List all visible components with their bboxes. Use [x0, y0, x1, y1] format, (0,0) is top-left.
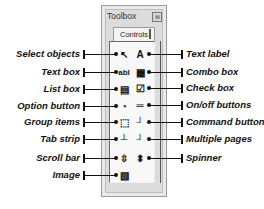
callout-label: Check box [186, 82, 234, 93]
callout-line [149, 72, 181, 73]
callout-label: Image [0, 169, 80, 180]
callout-label: Combo box [186, 66, 238, 77]
select-objects-icon[interactable]: ↖ [118, 49, 130, 60]
callout-label: Option button [0, 100, 80, 111]
callout-line [84, 158, 116, 159]
panel-edge [160, 41, 161, 183]
callout-line [149, 158, 181, 159]
option-button-icon[interactable]: ◔ [118, 101, 130, 112]
callout-line [84, 89, 116, 90]
command-button-icon[interactable]: ┘ [134, 117, 146, 128]
callout-line [84, 54, 116, 55]
callout-line [84, 122, 116, 123]
on-off-buttons-icon[interactable]: ═ [134, 100, 146, 111]
callout-tick [181, 101, 183, 110]
tab-strip-icon[interactable]: ┴ [118, 134, 130, 145]
callout-label: Command button [186, 116, 264, 127]
multiple-pages-icon[interactable]: ┘ [134, 134, 146, 145]
callout-line [149, 88, 181, 89]
callout-tick [181, 84, 183, 93]
text-label-icon[interactable]: A [134, 49, 146, 60]
callout-label: List box [0, 83, 80, 94]
callout-line [149, 105, 181, 106]
callout-label: Text label [186, 48, 229, 59]
callout-line [84, 106, 116, 107]
close-icon[interactable]: ⊠ [152, 12, 162, 22]
callout-line [84, 72, 116, 73]
scroll-bar-icon[interactable]: ⇳ [118, 153, 130, 164]
callout-tick [181, 118, 183, 127]
check-box-icon[interactable]: ☑ [134, 83, 146, 94]
callout-tick [181, 68, 183, 77]
callout-line [149, 54, 181, 55]
tab-divider [149, 29, 151, 39]
list-box-icon[interactable]: ▤ [118, 84, 130, 95]
image-icon[interactable]: ▧ [118, 170, 130, 181]
callout-label: Text box [0, 66, 80, 77]
callout-tick [181, 154, 183, 163]
callout-label: Tab strip [0, 133, 80, 144]
callout-line [149, 139, 181, 140]
text-box-icon[interactable]: abl [118, 67, 130, 78]
window-title: Toolbox [107, 11, 136, 21]
combo-box-icon[interactable]: ▦ [134, 67, 146, 78]
controls-panel [109, 41, 155, 183]
callout-label: Group items [0, 116, 80, 127]
callout-tick [181, 50, 183, 59]
callout-line [84, 139, 116, 140]
callout-label: Select objects [0, 48, 80, 59]
callout-label: Scroll bar [0, 152, 80, 163]
callout-label: On/off buttons [186, 99, 251, 110]
group-items-icon[interactable]: ⬚ [118, 117, 130, 128]
callout-label: Spinner [186, 152, 221, 163]
callout-line [84, 175, 116, 176]
spinner-icon[interactable]: ⬍ [134, 153, 146, 164]
callout-line [149, 122, 181, 123]
callout-label: Multiple pages [186, 133, 252, 144]
callout-tick [181, 135, 183, 144]
